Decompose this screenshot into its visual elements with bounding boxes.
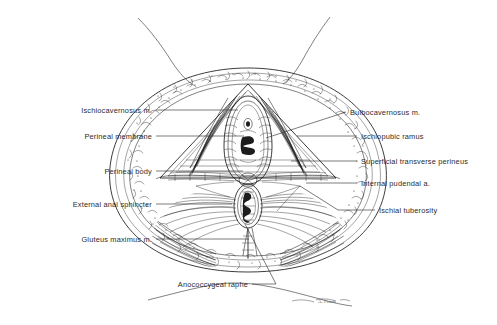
label-gluteus-maximus-text: Gluteus maximus m. bbox=[81, 235, 152, 244]
label-superficial-transverse-perineus-text: Superficial transverse perineus bbox=[361, 157, 468, 166]
label-ischial-tuberosity-text: Ischial tuberosity bbox=[379, 206, 437, 215]
label-ischiocavernosus-text: Ischiocavernosus m. bbox=[81, 106, 152, 115]
label-ischiopubic-ramus-text: Ischiopubic ramus bbox=[361, 132, 424, 141]
label-bulbocavernosus-text: Bulbocavernosus m. bbox=[350, 108, 420, 117]
label-anococcygeal-raphe-text: Anococcygeal raphe bbox=[178, 280, 248, 289]
label-internal-pudendal-text: Internal pudendal a. bbox=[361, 179, 430, 188]
label-perineal-body-text: Perineal body bbox=[104, 167, 152, 176]
perineum-figure: Ischiocavernosus m. Perineal membrane Pe… bbox=[0, 0, 497, 325]
illustration-page: Ischiocavernosus m. Perineal membrane Pe… bbox=[0, 0, 497, 325]
signature-text: A. Frank bbox=[318, 299, 336, 304]
label-external-anal-sphincter-text: External anal sphincter bbox=[73, 200, 153, 209]
label-perineal-membrane-text: Perineal membrane bbox=[84, 132, 152, 141]
